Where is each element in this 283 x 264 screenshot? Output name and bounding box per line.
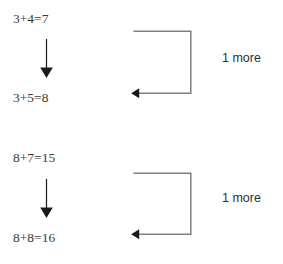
worksheet-canvas: 3+4=7 3+5=8 1 more 8+7=15 8+8=16 — [0, 0, 283, 264]
equation-3-plus-4: 3+4=7 — [13, 12, 48, 26]
annotation-1-more-first: 1 more — [222, 51, 261, 65]
equation-8-plus-7: 8+7=15 — [13, 151, 55, 165]
down-arrow-icon — [38, 178, 55, 220]
equation-8-plus-8: 8+8=16 — [13, 231, 55, 245]
left-pointing-bracket-arrow-icon — [128, 169, 198, 241]
left-pointing-bracket-arrow-icon — [128, 27, 198, 99]
down-arrow-icon — [38, 38, 55, 80]
annotation-1-more-second: 1 more — [222, 191, 261, 205]
equation-3-plus-5: 3+5=8 — [13, 91, 48, 105]
